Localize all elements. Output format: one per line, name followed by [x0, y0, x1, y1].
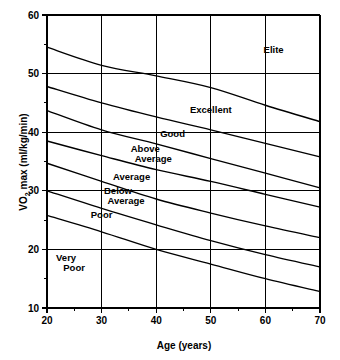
x-tick-label: 60: [260, 315, 272, 326]
vo2max-fitness-chart: 203040506070605040302010 EliteExcellentG…: [0, 0, 340, 360]
zone-label-line: Poor: [91, 209, 113, 220]
zone-label-average: Average: [113, 171, 150, 182]
zone-label-line: Average: [107, 195, 144, 206]
x-axis-title: Age (years): [157, 340, 211, 351]
x-tick-label: 70: [314, 315, 326, 326]
x-tick-label: 50: [205, 315, 217, 326]
chart-canvas: 203040506070605040302010 EliteExcellentG…: [0, 0, 340, 360]
y-tick-label: 50: [28, 68, 40, 79]
zone-label-line: Poor: [63, 262, 85, 273]
zone-label-excellent: Excellent: [190, 104, 233, 115]
x-tick-label: 30: [96, 315, 108, 326]
zone-label-line: Average: [135, 153, 172, 164]
x-tick-label: 40: [151, 315, 163, 326]
zone-label-elite: Elite: [264, 44, 284, 55]
x-tick-label: 20: [41, 315, 53, 326]
y-axis-title-pre: VO: [18, 196, 29, 211]
y-tick-label: 40: [28, 127, 40, 138]
y-tick-label: 10: [28, 303, 40, 314]
zone-label-line: Good: [160, 128, 185, 139]
zone-label-line: Excellent: [190, 104, 233, 115]
zone-label-line: Elite: [264, 44, 284, 55]
zone-label-good: Good: [160, 128, 185, 139]
zone-label-line: Average: [113, 171, 150, 182]
zone-label-poor: Poor: [91, 209, 113, 220]
y-tick-label: 60: [28, 10, 40, 21]
y-tick-label: 20: [28, 244, 40, 255]
y-axis-title-post: max (ml/kg/min): [18, 113, 29, 192]
